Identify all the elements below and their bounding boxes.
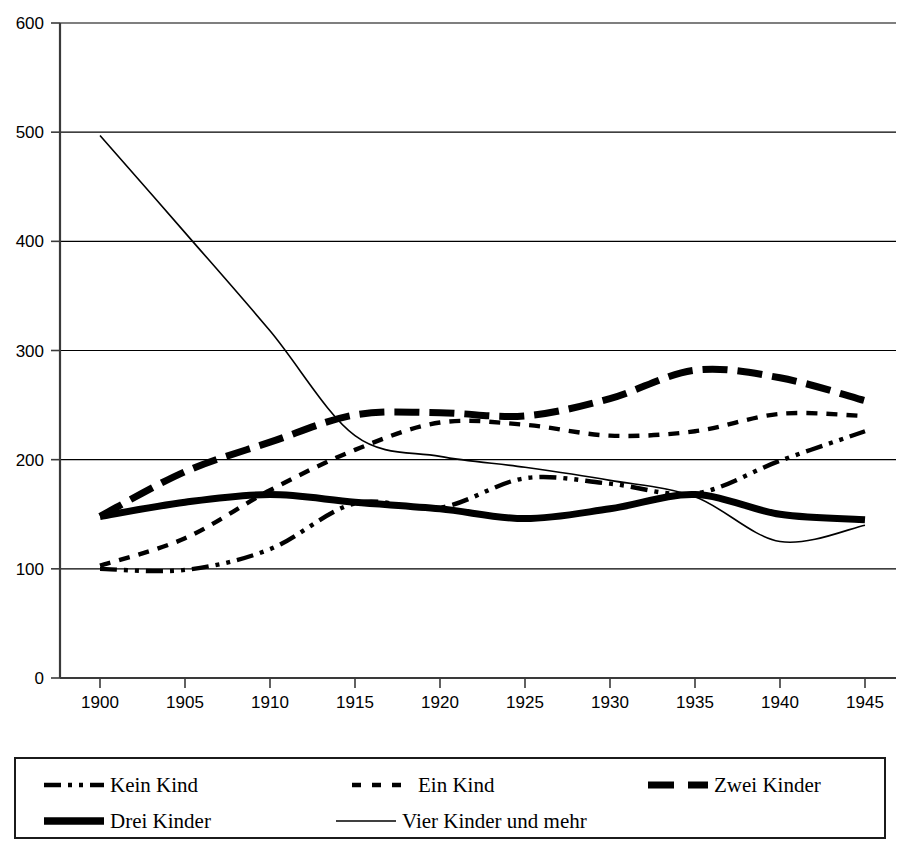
legend-swatch-thick-dashed-icon (648, 777, 708, 793)
x-tick-label: 1940 (761, 693, 799, 712)
x-tick-label: 1930 (591, 693, 629, 712)
x-tick-label: 1920 (421, 693, 459, 712)
series-lines (100, 135, 865, 571)
x-tick-label: 1910 (251, 693, 289, 712)
series-line-ein-kind (100, 413, 865, 566)
legend-swatch-dash-dot-dot-icon (44, 777, 104, 793)
legend-label: Vier Kinder und mehr (402, 811, 587, 832)
legend-grid: Kein Kind Ein Kind Zwei Kinder Drei Kind… (16, 759, 884, 837)
y-tick-label: 600 (16, 14, 44, 33)
chart-page: 0100200300400500600 19001905191019151920… (0, 0, 903, 847)
x-tick-label: 1935 (676, 693, 714, 712)
y-tick-label: 100 (16, 560, 44, 579)
x-tick-label: 1905 (166, 693, 204, 712)
x-tick-label: 1915 (336, 693, 374, 712)
x-tick-label: 1925 (506, 693, 544, 712)
legend-label: Ein Kind (418, 775, 494, 796)
legend-item-ein-kind[interactable]: Ein Kind (352, 771, 494, 799)
y-tick-label: 500 (16, 123, 44, 142)
legend-label: Drei Kinder (110, 811, 211, 832)
legend-label: Kein Kind (110, 775, 198, 796)
x-tick-label: 1900 (81, 693, 119, 712)
y-axis-ticks: 0100200300400500600 (16, 14, 60, 688)
x-axis-ticks: 1900190519101915192019251930193519401945 (81, 678, 884, 712)
legend-swatch-solid-thick-icon (44, 813, 104, 829)
legend-swatch-dashed-icon (352, 777, 412, 793)
series-line-zwei-kinder (100, 369, 865, 516)
y-tick-label: 200 (16, 451, 44, 470)
plot-svg: 0100200300400500600 19001905191019151920… (0, 0, 903, 720)
chart-legend: Kein Kind Ein Kind Zwei Kinder Drei Kind… (14, 757, 886, 839)
series-line-drei-kinder (100, 495, 865, 520)
legend-item-vier-kinder-und-mehr[interactable]: Vier Kinder und mehr (336, 807, 587, 835)
legend-item-zwei-kinder[interactable]: Zwei Kinder (648, 771, 821, 799)
legend-label: Zwei Kinder (714, 775, 821, 796)
y-tick-label: 0 (35, 669, 44, 688)
gridlines (60, 23, 896, 678)
series-line-vier-kinder-und-mehr (100, 135, 865, 542)
x-tick-label: 1945 (846, 693, 884, 712)
legend-item-kein-kind[interactable]: Kein Kind (44, 771, 198, 799)
legend-item-drei-kinder[interactable]: Drei Kinder (44, 807, 211, 835)
y-tick-label: 400 (16, 232, 44, 251)
y-tick-label: 300 (16, 342, 44, 361)
line-chart: 0100200300400500600 19001905191019151920… (0, 0, 903, 720)
legend-swatch-thin-solid-icon (336, 813, 396, 829)
